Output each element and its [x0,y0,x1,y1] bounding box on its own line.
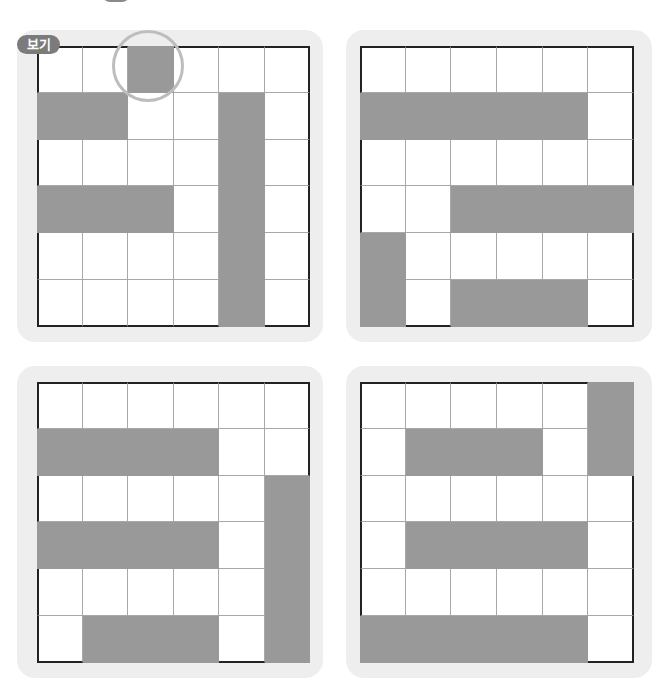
grid-cell-empty [265,93,311,140]
grid-cell-empty [543,140,589,187]
grid-cell-filled [543,280,589,327]
grid-cell-filled [37,429,83,476]
grid-cell-empty [588,522,634,569]
grid-cell-empty [128,382,174,429]
grid-cell-filled [265,569,311,616]
grid-cell-empty [543,382,589,429]
grid-cell-empty [265,280,311,327]
grid-cell-filled [451,616,497,663]
grid-cell-filled [543,93,589,140]
grid-cell-filled [497,280,543,327]
grid-cell-empty [174,569,220,616]
grid-cell-empty [451,569,497,616]
grid-cell-empty [406,569,452,616]
grid-cell-empty [406,280,452,327]
grid-cell-filled [83,616,129,663]
grid-cell-filled [37,522,83,569]
grid-cell-filled [451,186,497,233]
puzzle-grid-option-3[interactable] [360,382,634,663]
grid-cell-empty [497,569,543,616]
grid-cell-filled [219,233,265,280]
grid-cell-empty [219,569,265,616]
grid-cell-filled [497,429,543,476]
grid-cell-filled [37,186,83,233]
grid-cell-empty [360,429,406,476]
grid-cell-filled [588,429,634,476]
grid-cell-empty [37,280,83,327]
grid-cell-filled [406,616,452,663]
grid-cell-empty [174,280,220,327]
puzzle-grid-option-1[interactable] [360,46,634,327]
grid-cell-filled [174,522,220,569]
grid-cell-empty [37,569,83,616]
grid-cell-empty [128,476,174,523]
grid-cell-filled [265,522,311,569]
grid-cell-empty [83,382,129,429]
puzzle-grid-example [37,46,310,327]
grid-cell-filled [83,93,129,140]
grid-cell-empty [497,140,543,187]
grid-cell-empty [588,476,634,523]
example-badge: 보기 [17,35,60,54]
grid-cell-filled [497,186,543,233]
grid-cell-empty [360,569,406,616]
grid-cell-empty [451,382,497,429]
grid-cell-empty [451,233,497,280]
grid-cell-empty [83,233,129,280]
grid-cell-empty [83,46,129,93]
grid-cell-empty [265,382,311,429]
grid-cell-empty [128,280,174,327]
grid-cell-empty [406,382,452,429]
grid-cell-filled [128,616,174,663]
grid-cell-filled [543,522,589,569]
grid-cell-filled [497,522,543,569]
grid-cell-filled [360,616,406,663]
grid-cell-empty [588,140,634,187]
grid-cell-filled [128,429,174,476]
grid-cell-filled [451,280,497,327]
grid-cell-empty [406,233,452,280]
grid-cell-filled [83,522,129,569]
grid-cell-empty [497,46,543,93]
puzzle-grid-option-2[interactable] [37,382,310,663]
grid-cell-empty [174,476,220,523]
grid-cell-empty [83,476,129,523]
grid-cell-filled [360,233,406,280]
grid-cell-empty [543,429,589,476]
grid-cell-empty [83,140,129,187]
grid-cell-empty [128,569,174,616]
grid-cell-filled [174,429,220,476]
grid-cell-filled [497,93,543,140]
grid-cell-filled [406,429,452,476]
grid-cell-empty [83,280,129,327]
grid-cell-empty [360,46,406,93]
grid-cell-filled [497,616,543,663]
grid-cell-empty [37,233,83,280]
grid-cell-empty [451,140,497,187]
grid-cell-empty [543,46,589,93]
grid-cell-empty [360,186,406,233]
grid-cell-filled [219,93,265,140]
grid-cell-empty [174,140,220,187]
grid-cell-empty [588,93,634,140]
grid-cell-empty [451,476,497,523]
grid-cell-empty [128,140,174,187]
grid-cell-filled [588,186,634,233]
grid-cell-filled [543,186,589,233]
grid-cell-empty [497,382,543,429]
grid-cell-empty [360,522,406,569]
grid-cell-empty [219,382,265,429]
grid-cell-empty [174,233,220,280]
grid-cell-empty [219,429,265,476]
grid-cell-filled [83,186,129,233]
grid-cell-empty [219,46,265,93]
grid-cell-filled [128,46,174,93]
grid-cell-empty [219,476,265,523]
grid-cell-filled [406,93,452,140]
grid-cell-empty [174,382,220,429]
grid-cell-empty [265,46,311,93]
grid-cell-empty [219,616,265,663]
grid-cell-empty [406,186,452,233]
grid-cell-filled [543,616,589,663]
grid-cell-empty [37,140,83,187]
